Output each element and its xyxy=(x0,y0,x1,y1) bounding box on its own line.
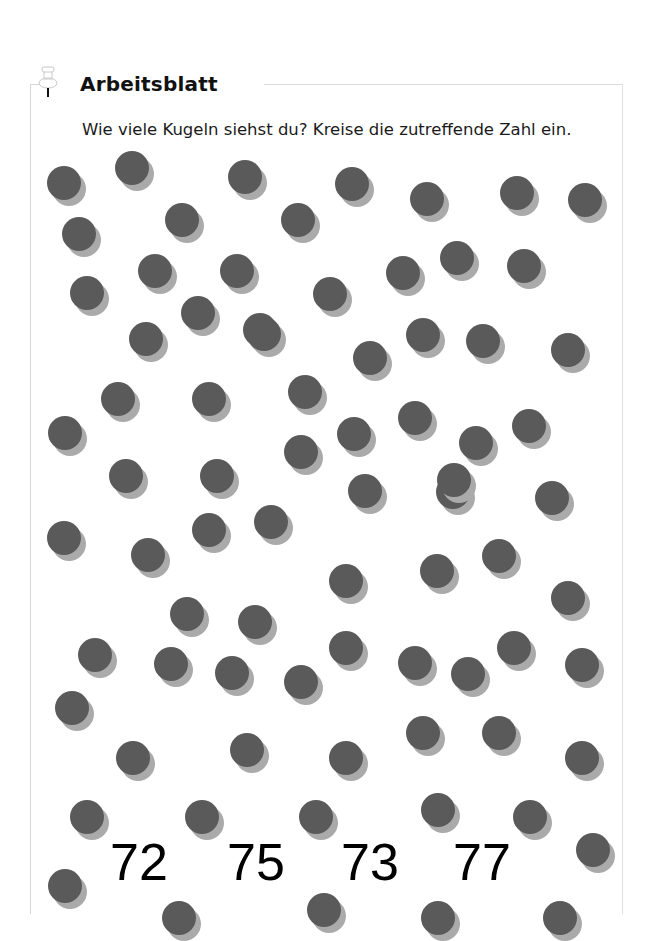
ball-disc xyxy=(284,665,318,699)
ball xyxy=(70,276,104,310)
ball-disc xyxy=(335,167,369,201)
ball-disc xyxy=(543,901,577,935)
ball-disc xyxy=(230,733,264,767)
ball-disc xyxy=(47,521,81,555)
ball-disc xyxy=(313,277,347,311)
ball xyxy=(437,463,471,497)
ball-disc xyxy=(131,538,165,572)
ball-disc xyxy=(551,581,585,615)
ball xyxy=(329,741,363,775)
ball xyxy=(284,435,318,469)
ball-disc xyxy=(437,463,471,497)
ball-disc xyxy=(200,459,234,493)
ball-disc xyxy=(507,249,541,283)
ball-disc xyxy=(500,176,534,210)
ball-disc xyxy=(410,182,444,216)
ball-disc xyxy=(406,716,440,750)
ball xyxy=(482,539,516,573)
ball-disc xyxy=(307,893,341,927)
ball-disc xyxy=(576,833,610,867)
ball xyxy=(131,538,165,572)
ball-disc xyxy=(162,901,196,935)
ball-disc xyxy=(565,741,599,775)
ball-disc xyxy=(47,166,81,200)
ball xyxy=(154,647,188,681)
ball xyxy=(386,256,420,290)
ball xyxy=(281,203,315,237)
ball-disc xyxy=(254,505,288,539)
task-instruction: Wie viele Kugeln siehst du? Kreise die z… xyxy=(82,120,571,139)
worksheet-frame-left xyxy=(30,84,31,914)
ball-disc xyxy=(116,741,150,775)
ball xyxy=(307,893,341,927)
ball xyxy=(420,554,454,588)
ball-disc xyxy=(181,296,215,330)
answer-option-77[interactable]: 77 xyxy=(453,836,511,888)
ball-disc xyxy=(48,416,82,450)
ball xyxy=(335,167,369,201)
ball-disc xyxy=(329,564,363,598)
ball xyxy=(48,416,82,450)
ball xyxy=(115,151,149,185)
ball xyxy=(406,318,440,352)
ball-disc xyxy=(420,554,454,588)
ball xyxy=(337,417,371,451)
ball xyxy=(200,459,234,493)
ball xyxy=(254,505,288,539)
ball-disc xyxy=(70,800,104,834)
ball xyxy=(129,322,163,356)
ball-disc xyxy=(170,597,204,631)
ball xyxy=(410,182,444,216)
ball xyxy=(313,277,347,311)
ball-disc xyxy=(497,631,531,665)
pushpin-icon xyxy=(34,66,62,106)
ball xyxy=(247,317,281,351)
ball-disc xyxy=(288,375,322,409)
ball xyxy=(513,800,547,834)
ball-disc xyxy=(440,241,474,275)
ball-disc xyxy=(228,160,262,194)
ball xyxy=(181,296,215,330)
ball xyxy=(230,733,264,767)
ball xyxy=(551,581,585,615)
ball-disc xyxy=(48,869,82,903)
ball xyxy=(500,176,534,210)
ball xyxy=(406,716,440,750)
ball xyxy=(568,183,602,217)
ball xyxy=(47,521,81,555)
ball xyxy=(459,426,493,460)
answer-option-75[interactable]: 75 xyxy=(227,836,285,888)
ball xyxy=(165,203,199,237)
ball-disc xyxy=(185,800,219,834)
ball-disc xyxy=(129,322,163,356)
ball xyxy=(116,741,150,775)
ball-disc xyxy=(337,417,371,451)
ball-disc xyxy=(421,901,455,935)
ball-disc xyxy=(284,435,318,469)
ball xyxy=(55,691,89,725)
ball xyxy=(576,833,610,867)
ball-disc xyxy=(459,426,493,460)
ball-disc xyxy=(466,324,500,358)
ball xyxy=(78,638,112,672)
ball-disc xyxy=(568,183,602,217)
page-title: Arbeitsblatt xyxy=(80,72,218,96)
ball-disc xyxy=(62,217,96,251)
ball xyxy=(101,382,135,416)
ball xyxy=(138,254,172,288)
ball-disc xyxy=(551,333,585,367)
ball-disc xyxy=(329,631,363,665)
ball xyxy=(170,597,204,631)
ball xyxy=(284,665,318,699)
ball xyxy=(507,249,541,283)
ball-disc xyxy=(165,203,199,237)
ball-disc xyxy=(55,691,89,725)
answer-option-72[interactable]: 72 xyxy=(110,836,168,888)
ball-disc xyxy=(482,539,516,573)
answer-option-73[interactable]: 73 xyxy=(341,836,399,888)
ball-disc xyxy=(220,254,254,288)
worksheet-frame-top xyxy=(264,84,623,85)
ball xyxy=(228,160,262,194)
ball-disc xyxy=(138,254,172,288)
ball xyxy=(62,217,96,251)
